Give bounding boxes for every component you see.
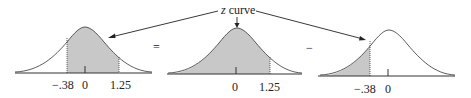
arrowhead-icon (359, 36, 366, 41)
z-curve-label: z curve (220, 3, 255, 17)
panel-3-left-of-neg-038: −.38 0 (318, 30, 455, 96)
normal-curve (320, 30, 455, 75)
arrow-to-panel-1 (111, 11, 218, 37)
tick-label: −.38 (52, 78, 74, 92)
arrow-to-panel-3 (256, 11, 363, 39)
tick-label: −.38 (354, 82, 376, 96)
tick-label: 0 (385, 82, 391, 96)
tick-label: 0 (232, 80, 238, 94)
minus-operator: − (306, 41, 313, 55)
panel-2-left-of-125: 0 1.25 (167, 28, 302, 94)
panel-1-between: −.38 0 1.25 (15, 27, 152, 92)
tick-label: 1.25 (259, 80, 280, 94)
tick-label: 1.25 (110, 78, 131, 92)
equals-operator: = (153, 40, 160, 54)
curve-word: curve (226, 3, 256, 17)
tick-label: 0 (82, 78, 88, 92)
arrowhead-icon (108, 34, 116, 39)
arrowhead-icon (235, 23, 240, 28)
z-curve-area-diagram: −.38 0 1.25 = 0 1.25 − −.38 0 z curve (0, 0, 471, 98)
